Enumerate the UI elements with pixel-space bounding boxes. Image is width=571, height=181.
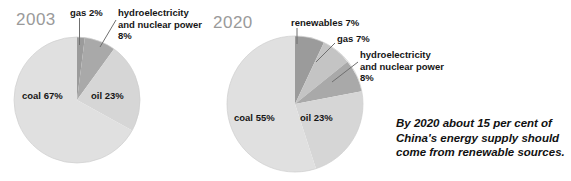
figure-caption: By 2020 about 15 per cent of China's ene…	[396, 116, 568, 160]
slice-label-2003-coal: coal 67%	[22, 90, 63, 102]
slice-label-2003-gas: gas 2%	[70, 7, 103, 19]
chart-title-2020: 2020	[213, 13, 253, 33]
pie-chart-2020	[227, 28, 363, 172]
slice-label-2020-renewables: renewables 7%	[291, 17, 359, 29]
slice-label-2020-coal: coal 55%	[234, 112, 275, 124]
figure-two-pie-charts: 2003 2020 gas 2% hydroelectricity and nu…	[0, 0, 571, 181]
slice-label-2020-gas: gas 7%	[337, 33, 370, 45]
slice-label-2003-hydro-nuclear: hydroelectricity and nuclear power 8%	[118, 7, 204, 42]
slice-label-2020-hydro-nuclear: hydroelectricity and nuclear power 8%	[360, 49, 446, 84]
slice-label-2020-oil: oil 23%	[300, 112, 333, 124]
slice-label-2003-oil: oil 23%	[91, 90, 124, 102]
leader-line-2003-hydro	[100, 20, 116, 47]
chart-title-2003: 2003	[16, 10, 56, 30]
